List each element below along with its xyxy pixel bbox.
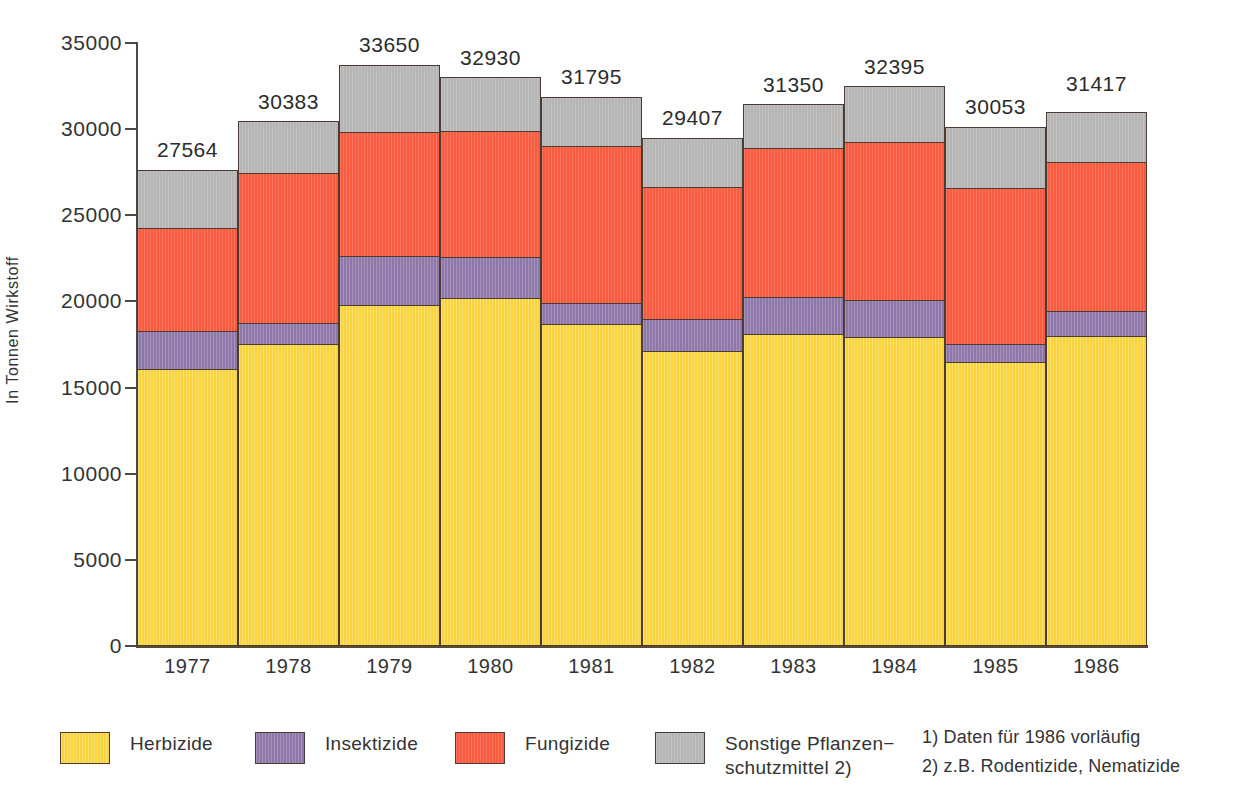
x-axis-label-1977: 1977 xyxy=(164,655,211,678)
legend-item-herb[interactable]: Herbizide xyxy=(60,732,213,764)
footnote-1: 1) Daten für 1986 vorläufig xyxy=(922,723,1180,752)
bar-segment[interactable] xyxy=(137,170,238,230)
bar-1980[interactable] xyxy=(440,30,541,646)
y-tick-label: 10000 xyxy=(61,462,122,486)
bar-segment[interactable] xyxy=(1046,161,1147,311)
y-tick-label: 0 xyxy=(110,634,122,658)
bar-1985[interactable] xyxy=(945,30,1046,646)
y-axis-title: In Tonnen Wirkstoff xyxy=(4,256,22,404)
y-tick-mark xyxy=(125,42,136,44)
x-axis-label-1982: 1982 xyxy=(669,655,716,678)
bar-segment[interactable] xyxy=(743,104,844,149)
bar-segment[interactable] xyxy=(945,361,1046,646)
y-tick-mark xyxy=(125,473,136,475)
bar-total-label: 27564 xyxy=(157,138,218,162)
legend-item-insek[interactable]: Insektizide xyxy=(255,732,418,764)
bar-segment[interactable] xyxy=(844,142,945,302)
bar-segment[interactable] xyxy=(1046,112,1147,163)
bar-segment[interactable] xyxy=(541,97,642,147)
bar-segment[interactable] xyxy=(743,333,844,646)
bar-total-label: 32930 xyxy=(460,46,521,70)
bar-segment[interactable] xyxy=(339,131,440,257)
bar-segment[interactable] xyxy=(1046,310,1147,337)
y-tick-mark xyxy=(125,645,136,647)
legend-item-fungi[interactable]: Fungizide xyxy=(455,732,610,764)
bar-1986[interactable] xyxy=(1046,30,1147,646)
x-axis-label-1980: 1980 xyxy=(467,655,514,678)
bar-1979[interactable] xyxy=(339,30,440,646)
bar-segment[interactable] xyxy=(238,322,339,345)
bar-segment[interactable] xyxy=(440,297,541,646)
bar-segment[interactable] xyxy=(137,369,238,646)
bar-segment[interactable] xyxy=(743,148,844,299)
y-tick-mark xyxy=(125,214,136,216)
bar-segment[interactable] xyxy=(844,336,945,646)
x-axis-label-1985: 1985 xyxy=(972,655,1019,678)
bar-1981[interactable] xyxy=(541,30,642,646)
bar-segment[interactable] xyxy=(844,86,945,143)
y-tick-mark xyxy=(125,387,136,389)
x-axis-label-1983: 1983 xyxy=(770,655,817,678)
bar-total-label: 32395 xyxy=(864,55,925,79)
bar-segment[interactable] xyxy=(844,300,945,338)
bar-segment[interactable] xyxy=(238,344,339,646)
bar-segment[interactable] xyxy=(238,172,339,323)
stacked-bar-chart: 05000100001500020000250003000035000 In T… xyxy=(0,0,1246,802)
bar-segment[interactable] xyxy=(743,297,844,335)
legend-item-sonst[interactable]: Sonstige Pflanzen− schutzmittel 2) xyxy=(655,732,895,780)
x-axis-label-1978: 1978 xyxy=(265,655,312,678)
legend-swatch-herb xyxy=(60,732,110,764)
legend-label-sonst: Sonstige Pflanzen− schutzmittel 2) xyxy=(725,732,895,780)
x-axis-label-1981: 1981 xyxy=(568,655,615,678)
bar-total-label: 31350 xyxy=(763,73,824,97)
bar-segment[interactable] xyxy=(642,350,743,646)
y-tick-mark xyxy=(125,559,136,561)
bar-total-label: 31417 xyxy=(1066,72,1127,96)
bar-segment[interactable] xyxy=(440,77,541,132)
bar-total-label: 31795 xyxy=(561,65,622,89)
bar-total-label: 29407 xyxy=(662,106,723,130)
bar-segment[interactable] xyxy=(541,303,642,325)
bar-segment[interactable] xyxy=(339,304,440,646)
bar-segment[interactable] xyxy=(945,127,1046,189)
y-tick-mark xyxy=(125,128,136,130)
bar-segment[interactable] xyxy=(945,343,1046,363)
legend-label-herb: Herbizide xyxy=(130,732,213,756)
bar-segment[interactable] xyxy=(440,131,541,258)
bar-total-label: 30383 xyxy=(258,90,319,114)
x-axis-label-1984: 1984 xyxy=(871,655,918,678)
bar-1977[interactable] xyxy=(137,30,238,646)
bar-segment[interactable] xyxy=(642,186,743,320)
y-tick-label: 15000 xyxy=(61,376,122,400)
bar-segment[interactable] xyxy=(642,318,743,352)
bar-total-label: 33650 xyxy=(359,33,420,57)
footnote-2: 2) z.B. Rodentizide, Nematizide xyxy=(922,752,1180,781)
bar-segment[interactable] xyxy=(440,256,541,298)
bar-segment[interactable] xyxy=(945,187,1046,345)
x-axis-label-1986: 1986 xyxy=(1073,655,1120,678)
legend-label-insek: Insektizide xyxy=(325,732,418,756)
bar-segment[interactable] xyxy=(137,228,238,333)
bar-segment[interactable] xyxy=(339,256,440,306)
plot-area xyxy=(137,30,1147,646)
x-axis-label-1979: 1979 xyxy=(366,655,413,678)
bar-segment[interactable] xyxy=(238,121,339,174)
bar-segment[interactable] xyxy=(541,145,642,304)
bar-1978[interactable] xyxy=(238,30,339,646)
bar-segment[interactable] xyxy=(137,331,238,371)
bar-total-label: 30053 xyxy=(965,95,1026,119)
legend-swatch-insek xyxy=(255,732,305,764)
y-tick-label: 20000 xyxy=(61,289,122,313)
y-tick-mark xyxy=(125,300,136,302)
bar-segment[interactable] xyxy=(339,65,440,133)
y-tick-label: 30000 xyxy=(61,117,122,141)
chart-footnotes: 1) Daten für 1986 vorläufig 2) z.B. Rode… xyxy=(922,723,1180,781)
bar-1983[interactable] xyxy=(743,30,844,646)
bar-1984[interactable] xyxy=(844,30,945,646)
bar-segment[interactable] xyxy=(642,138,743,188)
bar-segment[interactable] xyxy=(1046,335,1147,646)
y-tick-label: 25000 xyxy=(61,203,122,227)
legend-swatch-fungi xyxy=(455,732,505,764)
y-tick-label: 35000 xyxy=(61,31,122,55)
bar-segment[interactable] xyxy=(541,323,642,646)
